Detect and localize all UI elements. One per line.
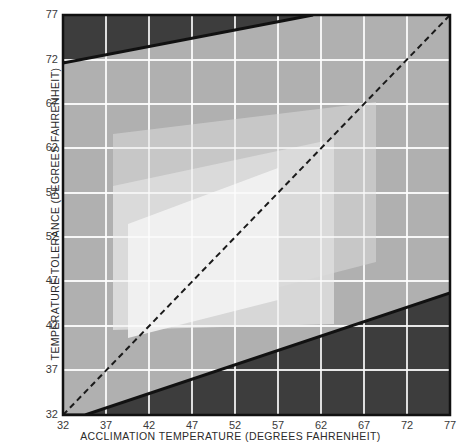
y-axis-label: TEMPERATURE TOLERANCE (DEGREES FAHRENHEI… (49, 68, 61, 361)
y-axis-label-wrapper: TEMPERATURE TOLERANCE (DEGREES FAHRENHEI… (45, 64, 63, 364)
thermal-tolerance-polygon-chart: 77 72 67 62 57 52 47 42 37 32 32 37 42 4… (0, 0, 461, 445)
x-axis-label: ACCLIMATION TEMPERATURE (DEGREES FAHRENH… (0, 430, 461, 442)
x-axis-ticks: 32 37 42 47 52 57 62 67 72 77 (0, 0, 461, 445)
